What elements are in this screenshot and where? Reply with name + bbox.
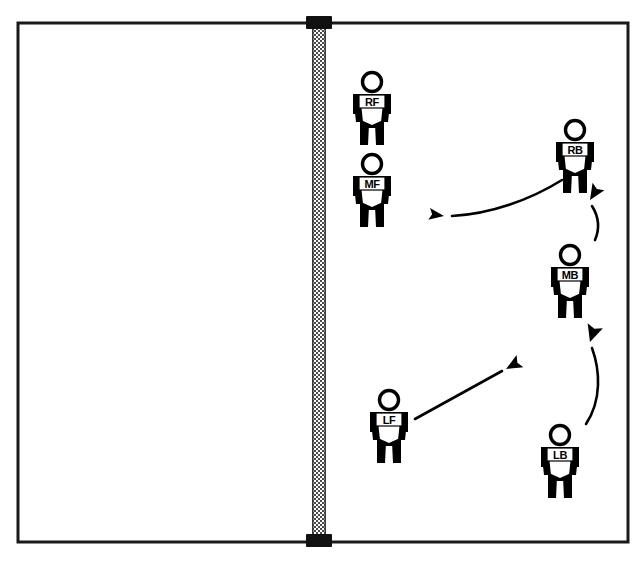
player-position-label: LF — [383, 414, 396, 426]
net-mesh-band — [312, 23, 326, 542]
player-leg-left-icon — [360, 206, 369, 227]
player-position-label: MB — [562, 269, 579, 281]
player-leg-left-icon — [563, 172, 572, 193]
court-canvas: RFMFRBMBLFLB — [0, 0, 644, 571]
player-head-icon — [561, 246, 580, 265]
player-head-icon — [380, 391, 399, 410]
net-post-cap-top — [306, 16, 332, 29]
player-leg-right-icon — [573, 297, 582, 318]
player-leg-left-icon — [558, 297, 567, 318]
player-position-label: RF — [365, 96, 380, 108]
player-leg-right-icon — [578, 172, 587, 193]
player-position-label: LB — [553, 449, 567, 461]
player-leg-left-icon — [360, 124, 369, 145]
player-leg-right-icon — [563, 477, 572, 498]
player-leg-right-icon — [375, 124, 384, 145]
player-position-label: MF — [364, 178, 380, 190]
player-leg-left-icon — [377, 442, 386, 463]
player-head-icon — [566, 121, 585, 140]
player-position-label: RB — [567, 144, 583, 156]
net-mesh-edge-right — [324, 23, 326, 542]
player-leg-right-icon — [375, 206, 384, 227]
player-leg-right-icon — [392, 442, 401, 463]
player-head-icon — [363, 155, 382, 174]
volleyball-court-diagram: RFMFRBMBLFLB — [0, 0, 644, 571]
player-head-icon — [363, 73, 382, 92]
player-leg-left-icon — [548, 477, 557, 498]
net-post-cap-bottom — [306, 534, 332, 547]
net-mesh-edge-left — [312, 23, 314, 542]
player-head-icon — [551, 426, 570, 445]
